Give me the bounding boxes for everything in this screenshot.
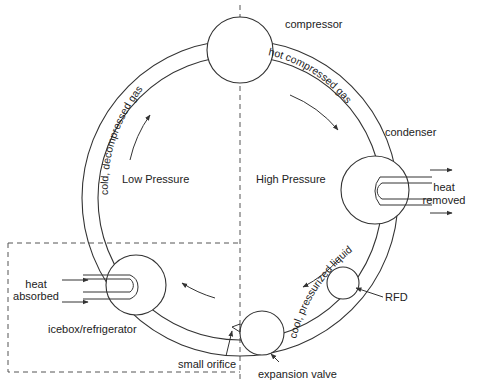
evaporator-circle xyxy=(106,255,166,315)
icebox-label: icebox/refrigerator xyxy=(48,323,137,335)
heat-removed-label-2: removed xyxy=(423,194,466,206)
heat-absorbed-label-2: absorbed xyxy=(13,290,59,302)
compressor-label: compressor xyxy=(285,18,343,30)
small-orifice-pointer xyxy=(226,331,232,356)
rfd-label: RFD xyxy=(385,291,408,303)
small-orifice-label: small orifice xyxy=(178,358,236,370)
flow-arrow-return xyxy=(182,283,215,298)
high-pressure-label: High Pressure xyxy=(256,173,326,185)
heat-removed-label-1: heat xyxy=(433,181,454,193)
expansion-valve-label: expansion valve xyxy=(258,368,337,380)
low-pressure-label: Low Pressure xyxy=(122,173,189,185)
refrigeration-cycle-diagram: compressor condenser heat removed RFD ex… xyxy=(0,0,481,389)
heat-absorbed-label-1: heat xyxy=(25,278,46,290)
condenser-label: condenser xyxy=(385,126,437,138)
orifice-shape xyxy=(232,324,240,332)
expansion-valve-circle xyxy=(240,311,284,355)
expansion-valve-pointer xyxy=(271,354,279,362)
flow-arrow-hot xyxy=(290,95,338,130)
flow-arrow-cold xyxy=(130,115,150,160)
compressor-circle xyxy=(207,17,273,83)
